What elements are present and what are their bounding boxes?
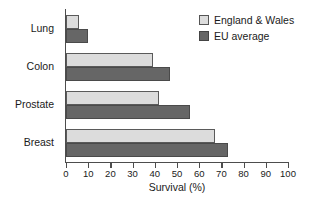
legend-label: EU average <box>214 30 269 42</box>
x-tick-label-30: 30 <box>127 168 138 179</box>
x-tick-label-100: 100 <box>280 168 296 179</box>
bar-colon-eu-average <box>66 67 170 81</box>
category-label-colon: Colon <box>27 61 54 72</box>
x-tick-label-50: 50 <box>172 168 183 179</box>
x-tick-label-10: 10 <box>83 168 94 179</box>
x-tick-label-90: 90 <box>261 168 272 179</box>
bar-group-colon <box>66 53 288 81</box>
x-axis-ticks: 0102030405060708090100 <box>66 163 288 168</box>
legend: England & WalesEU average <box>199 13 294 45</box>
bar-prostate-eu-average <box>66 105 190 119</box>
legend-item-england-wales: England & Wales <box>199 13 294 27</box>
bar-prostate-england-wales <box>66 91 159 105</box>
category-label-lung: Lung <box>31 23 54 34</box>
bar-lung-england-wales <box>66 15 79 29</box>
bar-group-prostate <box>66 91 288 119</box>
legend-swatch-icon <box>199 31 209 41</box>
x-tick-label-70: 70 <box>216 168 227 179</box>
bar-breast-england-wales <box>66 129 215 143</box>
x-tick-label-80: 80 <box>238 168 249 179</box>
bar-chart: LungColonProstateBreast 0102030405060708… <box>0 0 317 198</box>
bar-group-breast <box>66 129 288 157</box>
x-axis-title: Survival (%) <box>66 181 288 193</box>
legend-item-eu-average: EU average <box>199 29 294 43</box>
x-tick-label-40: 40 <box>150 168 161 179</box>
category-label-breast: Breast <box>24 137 54 148</box>
x-tick-label-60: 60 <box>194 168 205 179</box>
x-tick-label-0: 0 <box>63 168 68 179</box>
category-label-prostate: Prostate <box>15 99 54 110</box>
bar-colon-england-wales <box>66 53 153 67</box>
bar-lung-eu-average <box>66 29 88 43</box>
legend-swatch-icon <box>199 15 209 25</box>
category-axis-labels: LungColonProstateBreast <box>0 10 58 162</box>
bar-breast-eu-average <box>66 143 228 157</box>
legend-label: England & Wales <box>214 14 294 26</box>
x-tick-label-20: 20 <box>105 168 116 179</box>
